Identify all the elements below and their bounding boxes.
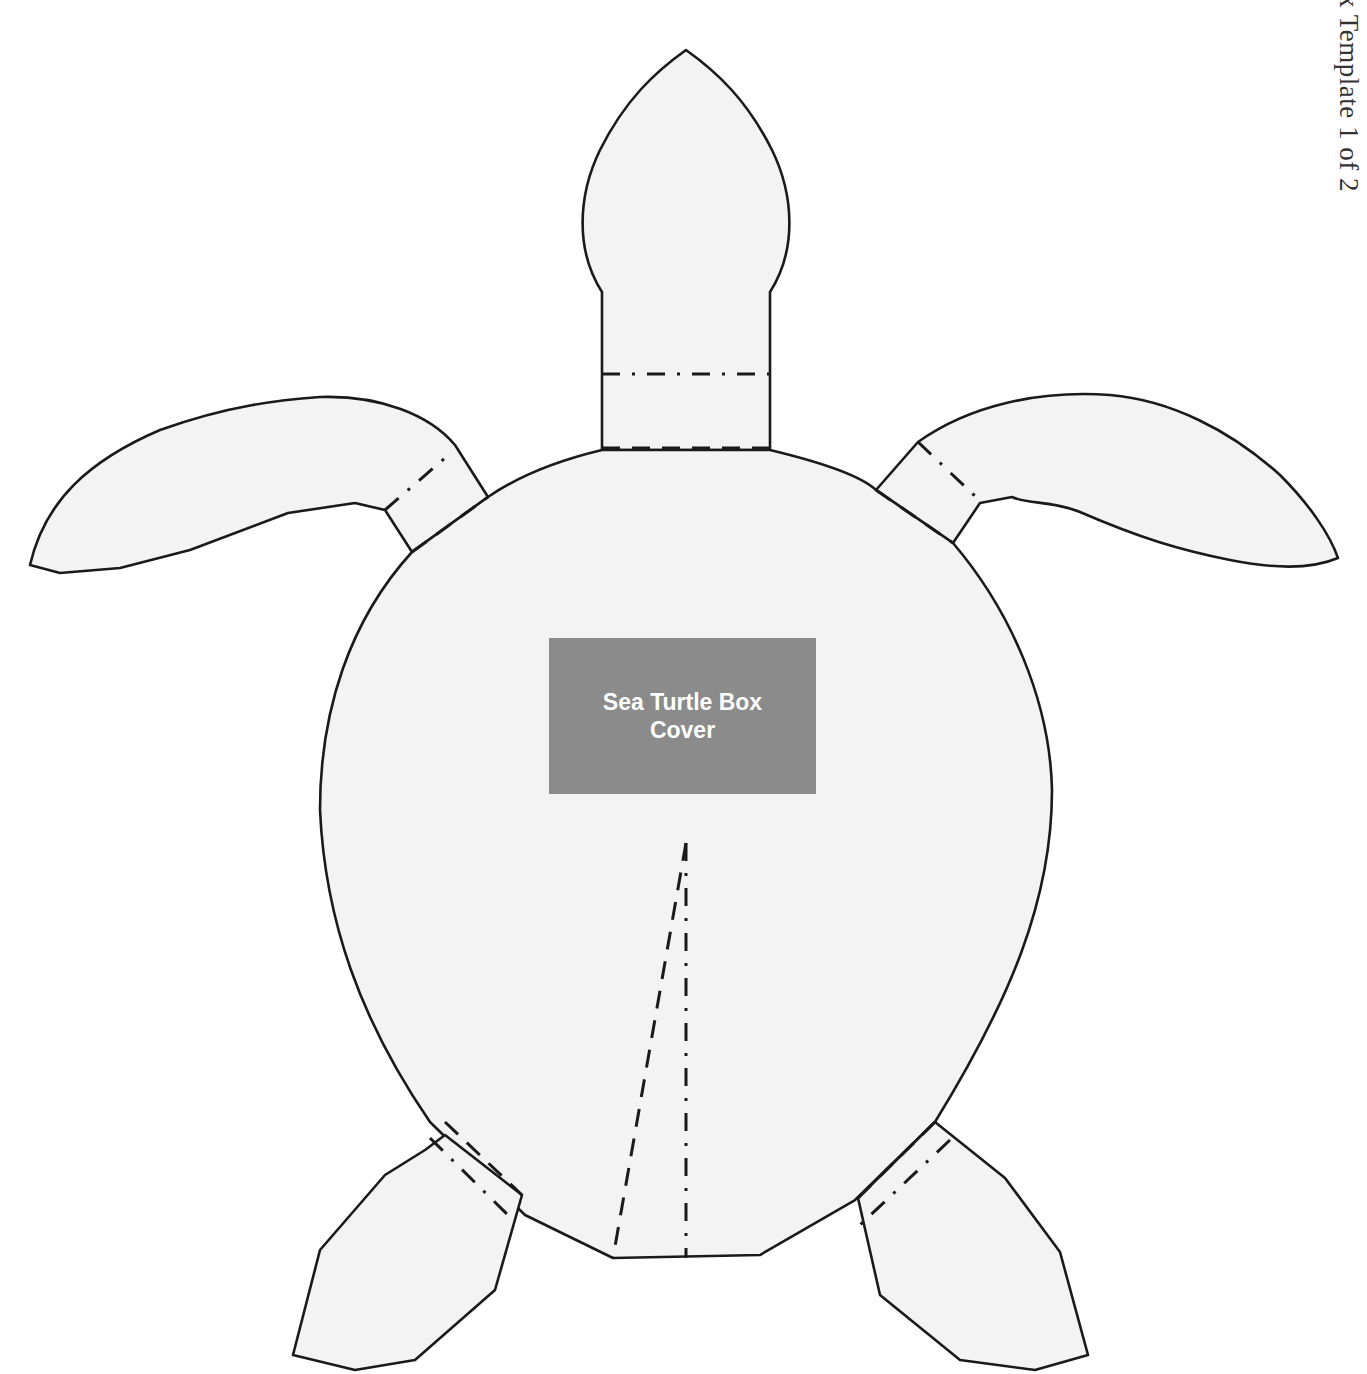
cover-label-box: Sea Turtle Box Cover <box>549 638 816 794</box>
cover-label-line1: Sea Turtle Box <box>603 688 762 716</box>
turtle-head <box>583 50 790 450</box>
cover-label-line2: Cover <box>650 716 715 744</box>
left-rear-flipper <box>293 1135 522 1370</box>
